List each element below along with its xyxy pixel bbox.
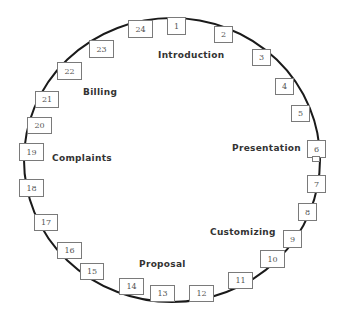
step-6-connector-tab: [312, 156, 320, 162]
step-box-9: 9: [283, 230, 302, 248]
phase-label-complaints: Complaints: [52, 153, 112, 163]
phase-label-customizing: Customizing: [210, 227, 276, 237]
step-box-5: 5: [291, 105, 310, 122]
step-box-21: 21: [35, 91, 59, 108]
step-box-24: 24: [128, 20, 153, 38]
step-box-22: 22: [57, 62, 82, 80]
step-box-15: 15: [80, 263, 104, 280]
process-cycle-diagram: 1 2 3 4 5 6 7 8 9 10 11 12 13 14 15 16 1…: [0, 0, 342, 321]
step-box-20: 20: [27, 117, 52, 134]
step-box-19: 19: [19, 143, 44, 161]
step-box-7: 7: [307, 175, 326, 193]
step-box-11: 11: [228, 272, 253, 289]
step-box-1: 1: [167, 17, 186, 35]
step-box-12: 12: [189, 285, 214, 302]
phase-label-introduction: Introduction: [158, 50, 224, 60]
step-box-10: 10: [260, 250, 285, 268]
phase-label-proposal: Proposal: [139, 259, 186, 269]
step-box-4: 4: [275, 78, 294, 95]
step-box-23: 23: [89, 40, 114, 58]
phase-label-billing: Billing: [83, 87, 117, 97]
step-box-16: 16: [57, 242, 82, 259]
phase-label-presentation: Presentation: [232, 143, 301, 153]
step-box-17: 17: [34, 214, 58, 231]
step-box-3: 3: [252, 49, 271, 66]
step-box-14: 14: [119, 278, 144, 295]
step-box-8: 8: [298, 203, 317, 221]
step-box-18: 18: [19, 179, 44, 197]
step-box-13: 13: [150, 285, 175, 302]
step-box-2: 2: [214, 26, 233, 43]
